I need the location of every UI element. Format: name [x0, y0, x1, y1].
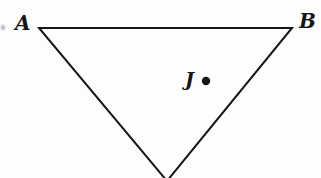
vertex-label-a: A	[15, 13, 31, 33]
vertex-label-b: B	[299, 11, 316, 31]
figure-background	[0, 0, 321, 178]
point-label-j: J	[185, 70, 195, 89]
point-j-dot	[202, 77, 210, 85]
scan-smudge-artifact	[0, 24, 6, 31]
figure-canvas	[0, 0, 321, 178]
geometry-figure: A B J	[0, 0, 321, 178]
